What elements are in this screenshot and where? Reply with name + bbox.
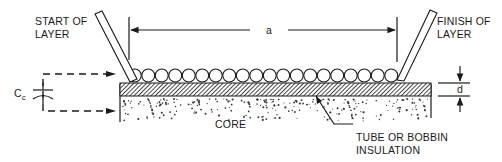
core-stipple-dot (276, 114, 278, 116)
core-stipple-dot (159, 117, 161, 119)
core-stipple-dot (256, 103, 258, 105)
insulation-label-line2: INSULATION (356, 144, 420, 156)
core-stipple-dot (273, 99, 274, 100)
core-stipple-dot (396, 101, 397, 102)
core-stipple-dot (279, 117, 281, 119)
core-stipple-dot (173, 101, 175, 103)
core-stipple-dot (355, 114, 357, 116)
start-of-layer-label-line2: LAYER (35, 28, 70, 40)
core-stipple-dot (149, 101, 150, 102)
core-stipple-dot (223, 99, 224, 100)
winding-turn (317, 69, 330, 82)
core-stipple-dot (274, 117, 276, 119)
core-stipple-dot (284, 106, 286, 108)
core-stipple-dot (324, 116, 325, 117)
core-stipple-dot (226, 99, 228, 101)
winding-turn (277, 69, 290, 82)
core-stipple-dot (125, 113, 127, 115)
core-stipple-dot (347, 102, 349, 104)
core-stipple-dot (351, 117, 353, 119)
core-stipple-dot (375, 100, 376, 101)
core-stipple-dot (299, 102, 301, 104)
core-stipple-dot (321, 99, 322, 100)
core-stipple-dot (295, 100, 297, 102)
core-stipple-dot (245, 115, 247, 117)
core-stipple-dot (175, 106, 177, 108)
core-stipple-dot (393, 119, 394, 120)
core-stipple-dot (150, 103, 151, 104)
core-stipple-dot (278, 104, 280, 106)
core-stipple-dot (406, 98, 408, 100)
core-stipple-dot (338, 113, 340, 115)
core-stipple-dot (225, 107, 227, 109)
core-stipple-dot (356, 106, 357, 107)
core-stipple-dot (198, 100, 200, 102)
core-label: CORE (215, 118, 246, 130)
core-stipple-dot (261, 116, 263, 118)
core-stipple-dot (327, 103, 329, 105)
winding-turns (128, 69, 397, 82)
core-stipple-dot (415, 107, 416, 108)
core-stipple-dot (293, 106, 294, 107)
core-stipple-dot (283, 102, 284, 103)
core-stipple-dot (173, 98, 175, 100)
core-stipple-dot (171, 118, 173, 120)
core-stipple-dot (201, 109, 202, 110)
core-stipple-dot (229, 100, 230, 101)
core-stipple-dot (180, 104, 182, 106)
core-stipple-dot (420, 100, 421, 101)
core-stipple-dot (299, 110, 301, 112)
core-stipple-dot (362, 111, 364, 113)
core-stipple-dot (406, 109, 408, 111)
core-stipple-dot (363, 120, 364, 121)
core-stipple-dot (265, 118, 267, 120)
core-stipple-dot (204, 113, 206, 115)
core-stipple-dot (248, 103, 250, 105)
core-stipple-dot (163, 114, 165, 116)
core-stipple-dot (241, 100, 243, 102)
core-stipple-dot (260, 99, 261, 100)
core-stipple-dot (197, 105, 199, 107)
core-stipple-dot (196, 100, 197, 101)
core-stipple-dot (327, 102, 328, 103)
core-stipple-dot (156, 106, 158, 108)
core-stipple-dot (265, 101, 267, 103)
capacitance-symbol: C (14, 87, 22, 99)
dimension-a-label: a (266, 24, 272, 36)
core-stipple-dot (270, 99, 271, 100)
core-stipple-dot (162, 102, 164, 104)
winding-turn (331, 69, 344, 82)
core-stipple-dot (341, 110, 342, 111)
core-stipple-dot (401, 99, 403, 101)
core-stipple-dot (209, 98, 211, 100)
core-stipple-dot (398, 111, 400, 113)
winding-turn (358, 69, 371, 82)
dimension-d: d (438, 66, 470, 112)
core-stipple-dot (152, 113, 154, 115)
core-stipple-dot (326, 119, 328, 121)
core-stipple-dot (161, 112, 163, 114)
winding-turn (182, 69, 195, 82)
core-stipple-dot (140, 101, 142, 103)
core-stipple-dot (229, 107, 230, 108)
core-stipple-dot (218, 115, 220, 117)
core-stipple-dot (159, 102, 161, 104)
core-stipple-dot (323, 99, 325, 101)
core-stipple-dot (296, 102, 297, 103)
core-stipple-dot (166, 100, 167, 101)
core-stipple-dot (151, 106, 152, 107)
winding-turn (344, 69, 357, 82)
capacitance-top-arrowhead (106, 71, 116, 77)
start-lead-wire (95, 11, 137, 82)
core-stipple-dot (163, 98, 165, 100)
core-stipple-dot (344, 102, 345, 103)
core-stipple-dot (216, 101, 218, 103)
core-stipple-dot (191, 104, 192, 105)
winding-turn (196, 69, 209, 82)
core-stipple-dot (337, 107, 339, 109)
winding-turn (263, 69, 276, 82)
core-stipple-dot (169, 111, 171, 113)
core-stipple-dot (425, 115, 427, 117)
finish-of-layer-label-line1: FINISH OF (437, 15, 491, 27)
finish-lead-wire (397, 10, 437, 81)
